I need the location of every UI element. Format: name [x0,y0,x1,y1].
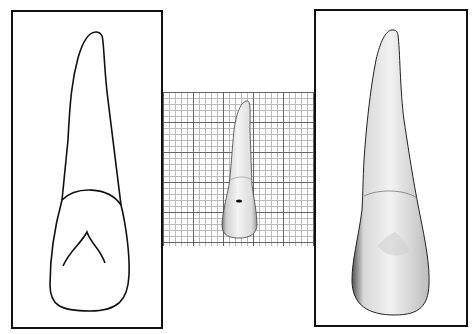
tooth-photo-large [352,30,429,315]
tooth-illustrations [0,0,473,334]
tooth-photo-small [222,101,257,238]
tooth-outline-drawing [50,32,129,311]
